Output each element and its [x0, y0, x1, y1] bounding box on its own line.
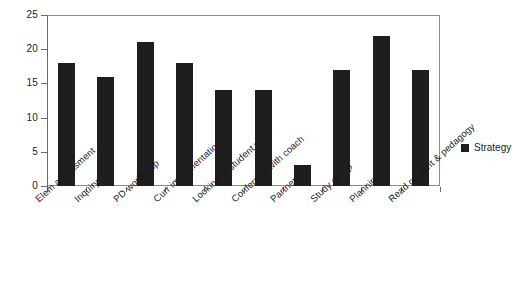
- x-tick-mark: [86, 187, 87, 192]
- bar: [58, 63, 75, 186]
- x-tick-mark: [322, 187, 323, 192]
- y-tick-label: 0: [4, 181, 38, 191]
- x-tick-mark: [361, 187, 362, 192]
- bar: [176, 63, 193, 186]
- bar-chart: 0510152025 Elem assessmentInquiryPD work…: [0, 0, 520, 306]
- bar: [373, 36, 390, 186]
- x-tick-mark: [401, 187, 402, 192]
- y-tick-20: 20: [0, 44, 38, 54]
- bar: [215, 90, 232, 186]
- chart-legend: Strategy: [461, 143, 511, 153]
- legend-swatch-icon: [461, 144, 469, 152]
- bar-series-strategy: [47, 15, 440, 186]
- bar: [412, 70, 429, 186]
- y-tick-0: 0: [0, 181, 38, 191]
- x-tick-mark: [165, 187, 166, 192]
- y-tick-label: 20: [4, 44, 38, 54]
- y-tick-25: 25: [0, 10, 38, 20]
- y-tick-label: 25: [4, 10, 38, 20]
- bar: [333, 70, 350, 186]
- x-tick-mark: [47, 187, 48, 192]
- y-tick-10: 10: [0, 113, 38, 123]
- bar: [255, 90, 272, 186]
- y-tick-15: 15: [0, 78, 38, 88]
- x-tick-mark: [440, 187, 441, 192]
- bar: [137, 42, 154, 186]
- bar: [294, 165, 311, 186]
- legend-label-strategy: Strategy: [474, 143, 511, 153]
- x-tick-mark: [244, 187, 245, 192]
- x-tick-mark: [283, 187, 284, 192]
- bar: [97, 77, 114, 186]
- y-tick-label: 15: [4, 78, 38, 88]
- y-tick-5: 5: [0, 147, 38, 157]
- x-tick-mark: [204, 187, 205, 192]
- x-tick-mark: [126, 187, 127, 192]
- y-tick-label: 5: [4, 147, 38, 157]
- y-tick-label: 10: [4, 113, 38, 123]
